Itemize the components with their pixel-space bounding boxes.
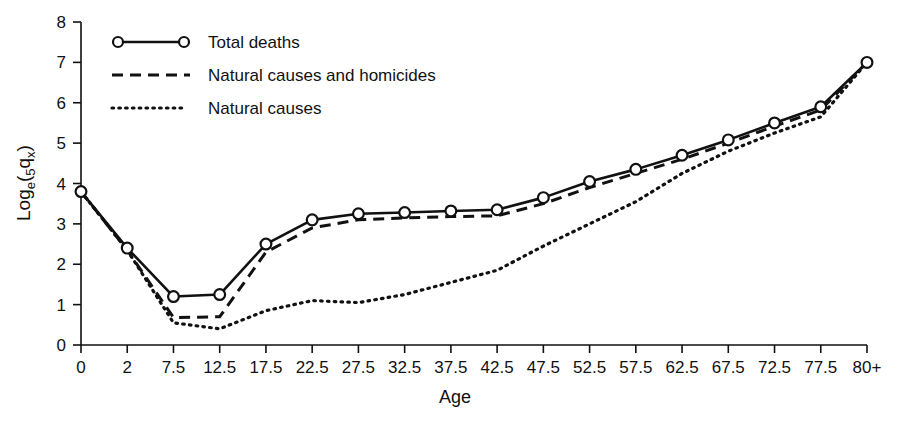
axes bbox=[73, 22, 867, 353]
x-tick-label: 57.5 bbox=[619, 358, 652, 377]
ylab-sub-e: e bbox=[23, 182, 38, 189]
y-tick-label: 4 bbox=[57, 175, 66, 194]
x-tick-label: 7.5 bbox=[162, 358, 186, 377]
chart-legend: Total deathsNatural causes and homicides… bbox=[112, 33, 436, 118]
x-tick-label: 2 bbox=[123, 358, 132, 377]
ylab-sub-5: 5 bbox=[23, 168, 38, 175]
data-point-marker bbox=[76, 186, 87, 197]
data-point-marker bbox=[677, 150, 688, 161]
data-point-marker bbox=[815, 101, 826, 112]
x-tick-label: 0 bbox=[76, 358, 85, 377]
y-tick-label: 0 bbox=[57, 336, 66, 355]
x-tick-label: 77.5 bbox=[804, 358, 837, 377]
data-point-marker bbox=[630, 164, 641, 175]
data-point-marker bbox=[122, 243, 133, 254]
series-line-2 bbox=[81, 62, 867, 328]
data-point-marker bbox=[445, 206, 456, 217]
y-axis-title: Loge(5qx) bbox=[13, 145, 38, 221]
x-tick-label: 32.5 bbox=[388, 358, 421, 377]
x-tick-label: 62.5 bbox=[666, 358, 699, 377]
x-tick-label: 80+ bbox=[853, 358, 882, 377]
y-tick-label: 2 bbox=[57, 255, 66, 274]
data-point-marker bbox=[168, 291, 179, 302]
chart-figure: 012345678 027.512.517.522.527.532.537.54… bbox=[0, 0, 906, 422]
x-tick-label: 52.5 bbox=[573, 358, 606, 377]
x-tick-label: 42.5 bbox=[481, 358, 514, 377]
ylab-log: Log bbox=[13, 189, 34, 221]
y-tick-label: 3 bbox=[57, 215, 66, 234]
legend-item-0: Total deaths bbox=[113, 33, 300, 52]
data-point-marker bbox=[261, 239, 272, 250]
legend-item-2: Natural causes bbox=[112, 99, 321, 118]
y-axis-tick-labels: 012345678 bbox=[57, 13, 66, 355]
x-tick-label: 37.5 bbox=[434, 358, 467, 377]
y-tick-label: 1 bbox=[57, 296, 66, 315]
line-chart-canvas: 012345678 027.512.517.522.527.532.537.54… bbox=[0, 0, 906, 422]
y-tick-label: 8 bbox=[57, 13, 66, 32]
legend-label-2: Natural causes bbox=[208, 99, 321, 118]
x-tick-label: 17.5 bbox=[249, 358, 282, 377]
series-line-0 bbox=[81, 62, 867, 296]
data-series-layer bbox=[76, 57, 873, 329]
data-point-marker bbox=[307, 214, 318, 225]
x-axis-ticks bbox=[81, 345, 867, 353]
data-point-marker bbox=[353, 208, 364, 219]
y-tick-label: 7 bbox=[57, 53, 66, 72]
data-point-marker bbox=[862, 57, 873, 68]
legend-label-1: Natural causes and homicides bbox=[208, 66, 436, 85]
x-tick-label: 12.5 bbox=[203, 358, 236, 377]
data-point-marker bbox=[769, 118, 780, 129]
data-point-marker bbox=[538, 192, 549, 203]
y-tick-label: 5 bbox=[57, 134, 66, 153]
data-point-marker bbox=[399, 207, 410, 218]
ylab-close-paren: ) bbox=[13, 145, 34, 151]
data-point-marker bbox=[492, 204, 503, 215]
data-point-marker bbox=[723, 134, 734, 145]
x-axis-tick-labels: 027.512.517.522.527.532.537.542.547.552.… bbox=[76, 358, 881, 377]
x-axis-title: Age bbox=[439, 387, 471, 407]
x-tick-label: 67.5 bbox=[712, 358, 745, 377]
legend-marker bbox=[179, 37, 189, 47]
x-tick-label: 72.5 bbox=[758, 358, 791, 377]
series-line-1 bbox=[81, 62, 867, 317]
y-axis-ticks bbox=[73, 22, 81, 345]
data-point-marker bbox=[214, 289, 225, 300]
x-tick-label: 22.5 bbox=[296, 358, 329, 377]
y-tick-label: 6 bbox=[57, 94, 66, 113]
y-axis-title-text: Loge(5qx) bbox=[13, 145, 38, 221]
x-tick-label: 47.5 bbox=[527, 358, 560, 377]
ylab-q: q bbox=[13, 158, 34, 169]
legend-marker bbox=[113, 37, 123, 47]
legend-label-0: Total deaths bbox=[208, 33, 300, 52]
data-point-marker bbox=[584, 176, 595, 187]
legend-item-1: Natural causes and homicides bbox=[112, 66, 436, 85]
x-tick-label: 27.5 bbox=[342, 358, 375, 377]
